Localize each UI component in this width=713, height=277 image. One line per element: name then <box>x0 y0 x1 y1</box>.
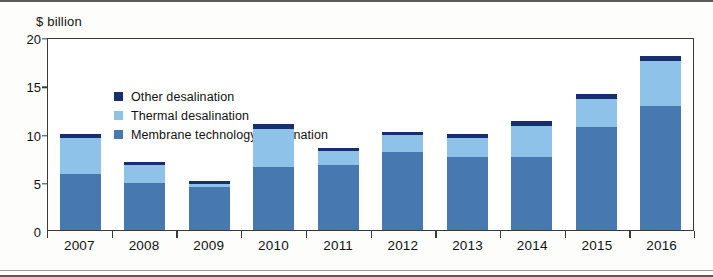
bar-segment <box>447 138 488 156</box>
bar-segment <box>382 135 423 151</box>
x-axis-label: 2008 <box>112 238 177 253</box>
stacked-bar[interactable] <box>640 56 681 230</box>
x-axis-tick-mark <box>500 231 501 238</box>
page-rule-top <box>0 0 713 2</box>
x-axis-labels: 2007200820092010201120122013201420152016 <box>47 238 694 253</box>
bar-segment <box>253 129 294 168</box>
x-axis-tick-mark <box>112 231 113 238</box>
bar-slot-2011 <box>306 39 371 230</box>
x-axis-label: 2010 <box>241 238 306 253</box>
bar-slot-2014 <box>500 39 565 230</box>
stacked-bar[interactable] <box>124 162 165 230</box>
x-axis-tick-mark <box>241 231 242 238</box>
x-axis-label: 2007 <box>47 238 112 253</box>
bar-segment <box>124 183 165 230</box>
bar-segment <box>511 126 552 157</box>
x-axis-tick-mark <box>435 231 436 238</box>
x-axis-label: 2013 <box>435 238 500 253</box>
stacked-bar[interactable] <box>382 132 423 230</box>
stacked-bar[interactable] <box>253 124 294 230</box>
bar-slot-2016 <box>629 39 694 230</box>
x-axis-label: 2009 <box>176 238 241 253</box>
bar-slot-2015 <box>564 39 629 230</box>
bar-slot-2007 <box>48 39 113 230</box>
y-axis-tick-label: 5 <box>34 176 41 191</box>
bar-segment <box>447 157 488 230</box>
bar-segment <box>318 151 359 165</box>
x-axis-tick-mark <box>371 231 372 238</box>
stacked-bar[interactable] <box>447 134 488 230</box>
page-rule-bottom-secondary <box>0 270 713 271</box>
bar-segment <box>576 127 617 230</box>
stacked-bar[interactable] <box>576 94 617 230</box>
x-axis-label: 2011 <box>306 238 371 253</box>
x-axis-label: 2014 <box>500 238 565 253</box>
x-axis-tick-mark <box>306 231 307 238</box>
x-axis-tick-mark <box>694 231 695 238</box>
y-axis-tick-label: 10 <box>27 128 41 143</box>
bar-segment <box>60 174 101 230</box>
bar-segment <box>124 165 165 182</box>
bar-slot-2012 <box>371 39 436 230</box>
y-axis-tick-label: 20 <box>27 32 41 47</box>
bar-slot-2009 <box>177 39 242 230</box>
bar-slot-2010 <box>242 39 307 230</box>
bar-slot-2013 <box>435 39 500 230</box>
x-axis-tick-mark <box>176 231 177 238</box>
stacked-bar[interactable] <box>318 148 359 230</box>
y-axis-title: $ billion <box>36 14 82 29</box>
stacked-bar[interactable] <box>60 134 101 230</box>
bar-segment <box>318 165 359 230</box>
x-axis-tick-mark <box>47 231 48 238</box>
bar-segment <box>60 138 101 174</box>
bar-segment <box>253 167 294 230</box>
plot-area: 05101520 Other desalinationThermal desal… <box>47 38 694 231</box>
bar-segment <box>189 187 230 230</box>
bar-slot-2008 <box>113 39 178 230</box>
x-axis-label: 2015 <box>565 238 630 253</box>
x-axis-label: 2016 <box>629 238 694 253</box>
x-axis-tick-mark <box>629 231 630 238</box>
stacked-bar[interactable] <box>511 121 552 230</box>
stacked-bar[interactable] <box>189 181 230 230</box>
y-axis-tick-label: 15 <box>27 80 41 95</box>
y-axis-tick-label: 0 <box>34 225 41 240</box>
x-axis-label: 2012 <box>371 238 436 253</box>
bar-segment <box>511 157 552 230</box>
bar-group <box>48 39 693 230</box>
bar-segment <box>640 106 681 230</box>
x-axis: 2007200820092010201120122013201420152016 <box>47 231 694 275</box>
bar-segment <box>576 99 617 127</box>
x-axis-ticks <box>47 231 694 238</box>
x-axis-tick-mark <box>565 231 566 238</box>
bar-segment <box>640 61 681 106</box>
bar-segment <box>382 152 423 230</box>
chart-figure: $ billion 05101520 Other desalinationThe… <box>0 0 713 277</box>
